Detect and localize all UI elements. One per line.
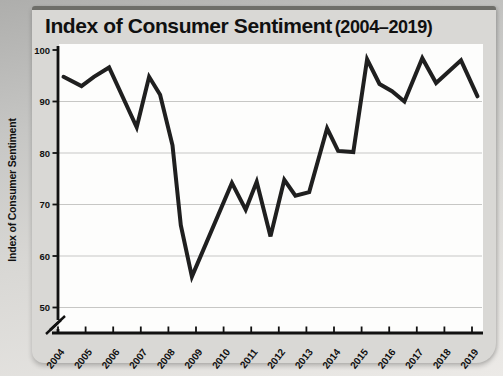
x-tick-label: 2016 bbox=[375, 346, 398, 371]
x-tick-label: 2005 bbox=[72, 346, 95, 371]
x-tick-label: 2012 bbox=[265, 346, 288, 371]
y-tick-label: 70 bbox=[39, 199, 50, 210]
y-tick-label: 100 bbox=[34, 45, 50, 56]
plot-area bbox=[59, 44, 483, 333]
y-tick-label: 50 bbox=[39, 302, 50, 313]
x-tick-label: 2019 bbox=[458, 346, 481, 371]
x-tick-label: 2011 bbox=[238, 346, 260, 370]
x-tick-label: 2007 bbox=[127, 346, 150, 371]
y-axis-title: Index of Consumer Sentiment bbox=[6, 118, 18, 262]
y-tick-label: 90 bbox=[39, 96, 50, 107]
consumer-sentiment-line-chart: 1009080706050200420052006200720082009201… bbox=[0, 0, 503, 376]
y-tick-label: 80 bbox=[39, 148, 50, 159]
x-tick-label: 2015 bbox=[348, 346, 371, 371]
x-tick-label: 2018 bbox=[431, 346, 454, 371]
x-tick-label: 2014 bbox=[320, 346, 343, 371]
page: Index of Consumer Sentiment(2004–2019) 1… bbox=[0, 0, 503, 376]
x-tick-label: 2008 bbox=[155, 346, 178, 371]
x-tick-label: 2004 bbox=[44, 346, 67, 371]
x-tick-label: 2006 bbox=[99, 346, 122, 371]
y-tick-label: 60 bbox=[39, 251, 50, 262]
x-tick-label: 2009 bbox=[182, 346, 205, 371]
x-tick-label: 2013 bbox=[293, 346, 316, 371]
x-tick-label: 2017 bbox=[403, 346, 426, 371]
x-tick-label: 2010 bbox=[210, 346, 233, 371]
